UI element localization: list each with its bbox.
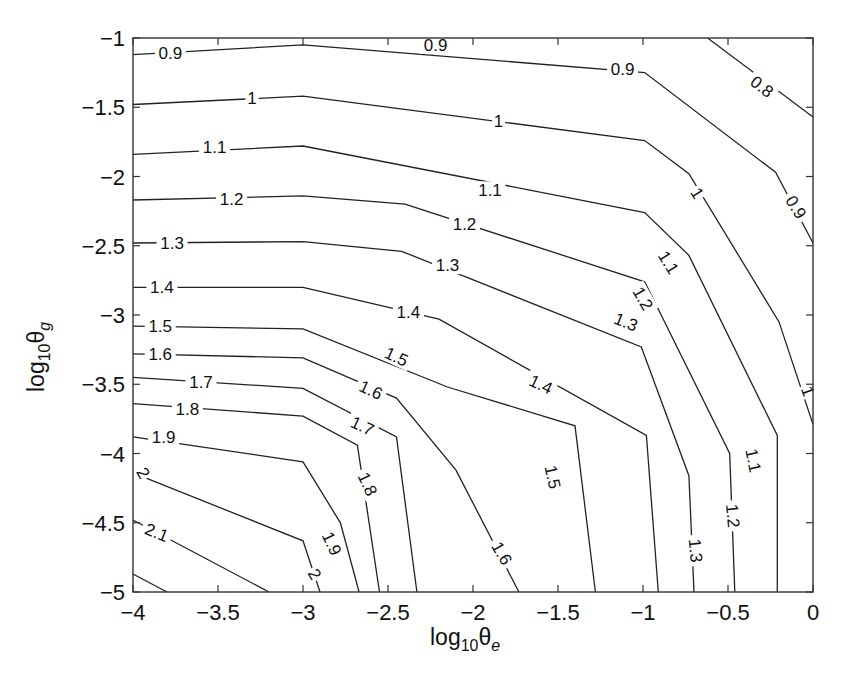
contour-line-1-1 <box>133 146 777 592</box>
contour-label: 1.4 <box>523 370 559 400</box>
svg-text:1.2: 1.2 <box>453 215 477 234</box>
svg-text:1.3: 1.3 <box>685 538 706 563</box>
svg-text:1: 1 <box>247 89 256 108</box>
contour-label: 1.7 <box>344 411 380 441</box>
contour-label: 0.9 <box>420 36 451 55</box>
x-tick-label: 0 <box>807 600 819 625</box>
svg-text:1.5: 1.5 <box>148 317 172 336</box>
contour-label: 1.6 <box>353 375 389 405</box>
svg-text:1.2: 1.2 <box>220 190 244 209</box>
contour-label: 1.2 <box>627 280 659 316</box>
y-axis-label: log10θg <box>23 322 53 392</box>
svg-text:1.9: 1.9 <box>152 428 176 447</box>
contour-label: 1.2 <box>722 500 744 533</box>
svg-text:0.9: 0.9 <box>159 44 183 63</box>
contour-line-1-5 <box>133 326 595 592</box>
contour-label: 1.8 <box>172 400 203 419</box>
x-tick-label: −2 <box>460 600 485 625</box>
contour-label: 0.9 <box>779 189 812 225</box>
y-tick-label: −2 <box>100 165 125 190</box>
contour-label: 1.5 <box>145 317 176 336</box>
contour-label: 1.6 <box>145 345 176 364</box>
contour-label: 1.7 <box>186 373 217 392</box>
contour-label: 1.1 <box>199 138 230 157</box>
contour-line-1-9 <box>133 437 359 592</box>
svg-text:1: 1 <box>494 112 503 131</box>
svg-text:0.9: 0.9 <box>424 36 448 55</box>
y-tick-label: −5 <box>100 580 125 605</box>
contour-label: 1.3 <box>608 308 644 337</box>
contour-label: 2.1 <box>139 518 175 547</box>
y-tick-label: −1 <box>100 26 125 51</box>
svg-text:1.1: 1.1 <box>741 447 765 474</box>
contour-label: 1.4 <box>146 278 177 297</box>
contour-label: 1.5 <box>540 460 565 494</box>
svg-text:1.7: 1.7 <box>189 373 213 392</box>
contour-line-1-2 <box>133 196 735 592</box>
contour-label: 0.9 <box>155 44 186 63</box>
y-tick-label: −3 <box>100 303 125 328</box>
svg-text:1.1: 1.1 <box>203 138 227 157</box>
x-tick-label: −3.5 <box>196 600 239 625</box>
x-tick-label: −1.5 <box>536 600 579 625</box>
contour-label: 1.9 <box>148 428 179 447</box>
svg-text:1.4: 1.4 <box>150 278 174 297</box>
svg-text:1.2: 1.2 <box>722 503 743 528</box>
contour-label: 1.5 <box>378 342 414 372</box>
svg-text:1.5: 1.5 <box>541 464 565 491</box>
x-tick-label: −0.5 <box>706 600 749 625</box>
contour-label: 1.2 <box>216 190 247 209</box>
y-tick-label: −4 <box>100 442 125 467</box>
svg-text:1.3: 1.3 <box>436 256 460 275</box>
x-tick-label: −2.5 <box>366 600 409 625</box>
contour-label: 1.1 <box>740 443 765 477</box>
svg-text:1.8: 1.8 <box>176 400 200 419</box>
x-axis-label: log10θe <box>430 624 500 654</box>
contour-lines <box>133 38 813 592</box>
y-axis-ticks: −1−1.5−2−2.5−3−3.5−4−4.5−5 <box>82 26 813 605</box>
contour-line-0-9 <box>133 45 813 243</box>
contour-label: 1.3 <box>157 234 188 253</box>
contour-line-2-2 <box>133 574 167 592</box>
contour-label: 2 <box>303 564 326 585</box>
contour-label: 1.8 <box>352 466 382 502</box>
y-tick-label: −1.5 <box>82 95 125 120</box>
contour-label: 1.4 <box>393 303 424 322</box>
x-tick-label: −3 <box>290 600 315 625</box>
contour-label: 0.9 <box>607 60 638 79</box>
contour-label: 1.3 <box>684 534 706 567</box>
contour-line-1-3 <box>133 242 694 592</box>
contour-label: 1.2 <box>449 215 480 234</box>
contour-label: 1.1 <box>475 181 506 200</box>
contour-label: 1 <box>492 112 505 131</box>
x-tick-label: −1 <box>630 600 655 625</box>
svg-text:1.6: 1.6 <box>148 345 172 364</box>
svg-text:1.3: 1.3 <box>160 234 184 253</box>
contour-line-1 <box>133 96 813 424</box>
contour-line-1-4 <box>133 287 658 592</box>
contour-label: 1.6 <box>485 535 517 571</box>
contour-label: 1 <box>246 89 259 108</box>
contour-chart: 0.80.90.90.90.911111.11.11.11.11.21.21.2… <box>0 0 843 688</box>
contour-label: 0.8 <box>744 70 780 104</box>
y-tick-label: −4.5 <box>82 511 125 536</box>
plot-frame <box>133 38 813 592</box>
y-tick-label: −3.5 <box>82 372 125 397</box>
y-tick-label: −2.5 <box>82 234 125 259</box>
contour-label: 1.3 <box>432 256 463 275</box>
svg-text:1.1: 1.1 <box>478 181 502 200</box>
svg-text:0.9: 0.9 <box>611 60 635 79</box>
svg-text:1.4: 1.4 <box>397 303 421 322</box>
contour-label: 1.1 <box>652 244 685 280</box>
